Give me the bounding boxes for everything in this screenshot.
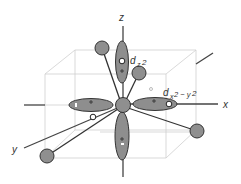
electron-marker-y xyxy=(90,114,96,120)
dz2-lower-lobe xyxy=(115,112,129,160)
highlight-bottom xyxy=(121,143,124,145)
ligand-top-left xyxy=(95,41,109,55)
electron-marker-small xyxy=(150,88,153,91)
highlight-left xyxy=(75,103,77,107)
y-axis-neg-stub xyxy=(196,53,213,64)
orbital-diagram: z x y d z 2 d x 2 − y 2 xyxy=(0,0,241,184)
diagram-canvas: z x y d z 2 d x 2 − y 2 xyxy=(0,0,241,184)
svg-text:2 − y: 2 − y xyxy=(173,90,192,99)
ligand-lower-right xyxy=(190,124,204,138)
z-axis-label: z xyxy=(118,12,124,23)
ligand-lower-left xyxy=(40,149,54,163)
svg-text:2: 2 xyxy=(191,89,197,98)
svg-text:d: d xyxy=(163,87,169,98)
svg-text:z: z xyxy=(136,61,141,68)
dx2y2-label: d x 2 − y 2 xyxy=(163,87,197,100)
electron-marker-z xyxy=(119,58,125,64)
ligand-upper-right xyxy=(132,66,146,80)
y-axis-label: y xyxy=(11,144,18,155)
x-axis-label: x xyxy=(222,99,229,110)
svg-text:2: 2 xyxy=(141,58,147,67)
central-metal-atom xyxy=(116,98,131,113)
electron-marker-x xyxy=(166,101,172,107)
dz2-label: d z 2 xyxy=(130,55,147,68)
y-axis xyxy=(24,106,122,148)
svg-text:d: d xyxy=(130,55,136,66)
